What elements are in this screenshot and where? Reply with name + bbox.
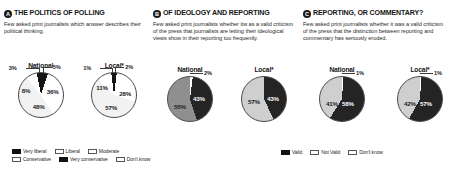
slice-value-not-valid: 41% <box>326 100 338 107</box>
panel-ideology-and-reporting: B OF IDEOLOGY AND REPORTING Few asked pr… <box>153 0 301 179</box>
panel-politics-of-polling: A THE POLITICS OF POLLING Few asked prin… <box>4 0 151 179</box>
legend-swatch-icon <box>12 157 21 162</box>
slice-value-valid: 43% <box>267 95 279 102</box>
legend-label: Don't know <box>359 149 383 155</box>
leader-line-right <box>43 67 52 68</box>
panel-badge-icon: A <box>4 10 12 18</box>
leader-line <box>190 73 203 74</box>
leader-line-left <box>100 68 112 69</box>
legend-swatch-icon <box>310 150 319 155</box>
leader-line-top <box>43 67 44 73</box>
pie-chart-local: 43% 57% <box>241 76 287 122</box>
legend-label: Very conservative <box>70 156 108 162</box>
panel-description: Few asked print journalists whether it w… <box>303 21 445 43</box>
slice-value-valid: 43% <box>193 95 205 102</box>
chart-cell-national: National 43% 55% 2% <box>153 66 227 122</box>
legend-item-very-liberal: Very liberal <box>12 148 47 154</box>
legend-swatch-icon <box>348 150 357 155</box>
leader-line <box>420 73 433 74</box>
slice-value-valid: 57% <box>420 100 432 107</box>
pie-chart-local: 28% 57% 11% 2% 1% <box>91 72 137 118</box>
legend-row: Valid Not Valid Don't know <box>281 149 388 155</box>
callout-very-liberal: 2% <box>125 64 133 70</box>
panel-header: B OF IDEOLOGY AND REPORTING <box>153 9 301 18</box>
legend-item-conservative: Conservative <box>12 156 51 162</box>
legend-row: Very liberal Liberal Moderate <box>12 148 155 154</box>
chart-cell-local: Local* 43% 57% <box>227 66 301 122</box>
pie-chart-national: 43% 55% 2% <box>167 76 213 122</box>
callout-very-liberal: 5% <box>53 64 61 70</box>
legend-validity: Valid Not Valid Don't know <box>281 149 388 157</box>
legend-item-liberal: Liberal <box>55 148 80 154</box>
chart-cell-local: Local* 57% 42% 1% <box>381 66 459 122</box>
legend-item-dont-know: Don't know <box>116 156 151 162</box>
slice-value-valid: 58% <box>342 100 354 107</box>
chart-label: Local* <box>227 66 301 73</box>
panel-description: Few asked print journalists whether itw … <box>153 21 295 43</box>
leader-line-right <box>115 67 124 68</box>
legend-label: Liberal <box>66 148 80 154</box>
legend-swatch-icon <box>281 150 290 155</box>
callout-dont-know: 2% <box>204 70 212 76</box>
legend-item-not-valid: Not Valid <box>310 149 340 155</box>
legend-swatch-icon <box>116 157 125 162</box>
legend-swatch-icon <box>12 149 21 154</box>
slice-value-not-valid: 57% <box>248 98 260 105</box>
pie-shape <box>319 76 365 122</box>
legend-label: Very liberal <box>23 148 47 154</box>
slice-value-moderate: 57% <box>105 104 117 111</box>
legend-swatch-icon <box>88 149 97 154</box>
pie-shape <box>18 72 64 118</box>
leader-line-top-left <box>112 68 113 73</box>
panel-title: THE POLITICS OF POLLING <box>14 9 105 18</box>
slice-value-moderate: 48% <box>33 103 45 110</box>
legend-item-very-conservative: Very conservative <box>59 156 108 162</box>
legend-label: Valid <box>292 149 302 155</box>
panel-badge-icon: C <box>303 10 311 18</box>
legend-label: Moderate <box>99 148 119 154</box>
slice-value-conservative: 8% <box>22 87 31 94</box>
slice-value-liberal: 28% <box>119 90 131 97</box>
slice-value-conservative: 11% <box>96 84 107 91</box>
legend-label: Conservative <box>23 156 51 162</box>
pie-chart-local: 57% 42% 1% <box>397 76 443 122</box>
leader-line-left <box>26 68 39 69</box>
panel-description: Few asked print journalists which answer… <box>4 21 146 36</box>
legend-ideology: Very liberal Liberal Moderate Conservati… <box>12 148 155 164</box>
chart-row: National 43% 55% 2% Local* 43% <box>153 66 301 122</box>
pie-shape <box>167 76 213 122</box>
panel-badge-icon: B <box>153 10 161 18</box>
panel-title: REPORTING, OR COMMENTARY? <box>313 9 423 18</box>
legend-label: Not Valid <box>321 149 340 155</box>
chart-row: National 36% 48% 8% 5% 3% <box>4 62 151 118</box>
callout-very-conservative: 1% <box>83 65 91 71</box>
chart-label: National <box>153 66 227 73</box>
legend-item-moderate: Moderate <box>88 148 119 154</box>
leader-line-top-left <box>39 68 40 73</box>
slice-value-not-valid: 55% <box>174 103 186 110</box>
legend-swatch-icon <box>59 157 68 162</box>
slice-value-liberal: 36% <box>47 88 59 95</box>
legend-swatch-icon <box>55 149 64 154</box>
chart-label: National <box>303 66 381 73</box>
legend-item-valid: Valid <box>281 149 302 155</box>
callout-dont-know: 1% <box>434 70 442 76</box>
chart-cell-national: National 58% 41% 1% <box>303 66 381 122</box>
leader-line-top <box>115 67 116 73</box>
pie-chart-national: 36% 48% 8% 5% 3% <box>18 72 64 118</box>
slice-value-not-valid: 42% <box>404 100 416 107</box>
panel-title: OF IDEOLOGY AND REPORTING <box>163 9 270 18</box>
chart-cell-local: Local* 28% 57% 11% 2% 1% <box>78 62 152 118</box>
chart-row: National 58% 41% 1% Local* 57% <box>303 66 460 122</box>
chart-cell-national: National 36% 48% 8% 5% 3% <box>4 62 78 118</box>
callout-dont-know: 1% <box>356 70 364 76</box>
panel-header: C REPORTING, OR COMMENTARY? <box>303 9 460 18</box>
leader-line <box>342 73 355 74</box>
panel-header: A THE POLITICS OF POLLING <box>4 9 151 18</box>
legend-label: Don't know <box>127 156 151 162</box>
legend-row: Conservative Very conservative Don't kno… <box>12 156 155 162</box>
callout-very-conservative: 3% <box>9 65 17 71</box>
pie-chart-national: 58% 41% 1% <box>319 76 365 122</box>
infographic-root: A THE POLITICS OF POLLING Few asked prin… <box>0 0 463 179</box>
legend-item-dont-know: Don't know <box>348 149 383 155</box>
